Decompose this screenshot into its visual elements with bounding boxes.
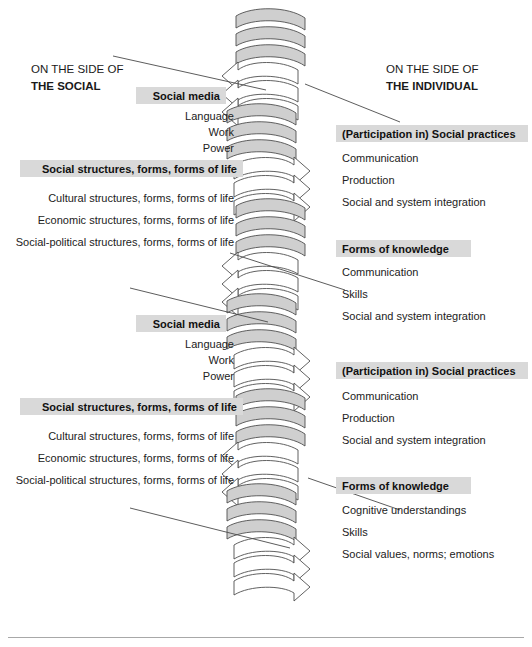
right-item-2-0: Communication [342,390,418,403]
right-item-2-2: Social and system integration [342,434,486,447]
right-heading-1: Forms of knowledge [342,243,449,256]
left-item-0-0: Language [120,110,234,123]
right-caption-line1: ON THE SIDE OF [386,62,478,76]
left-item-0-1: Work [120,126,234,139]
left-item-2-2: Power [120,370,234,383]
left-heading-0: Social media [136,90,220,103]
right-item-2-1: Production [342,412,395,425]
right-item-1-2: Social and system integration [342,310,486,323]
left-caption-line1: ON THE SIDE OF [31,62,123,76]
right-item-0-0: Communication [342,152,418,165]
right-item-1-1: Skills [342,288,368,301]
right-item-0-1: Production [342,174,395,187]
left-item-2-0: Language [120,338,234,351]
diagram-canvas: ON THE SIDE OF THE SOCIAL ON THE SIDE OF… [0,0,532,647]
right-item-0-2: Social and system integration [342,196,486,209]
left-item-3-0: Cultural structures, forms, forms of lif… [0,430,234,443]
right-caption-line2: THE INDIVIDUAL [386,79,478,93]
right-heading-2: (Participation in) Social practices [342,365,516,378]
right-item-3-1: Skills [342,526,368,539]
right-heading-0: (Participation in) Social practices [342,128,516,141]
right-heading-3: Forms of knowledge [342,480,449,493]
left-item-1-2: Social-political structures, forms, form… [0,236,234,249]
left-item-1-1: Economic structures, forms, forms of lif… [0,214,234,227]
right-item-1-0: Communication [342,266,418,279]
left-item-2-1: Work [120,354,234,367]
left-heading-2: Social media [136,318,220,331]
bottom-divider [8,637,524,638]
right-item-3-2: Social values, norms; emotions [342,548,494,561]
left-item-3-1: Economic structures, forms, forms of lif… [0,452,234,465]
left-heading-3: Social structures, forms, forms of life [20,401,237,414]
left-heading-1: Social structures, forms, forms of life [20,163,237,176]
left-item-3-2: Social-political structures, forms, form… [0,474,234,487]
right-item-3-0: Cognitive understandings [342,504,466,517]
left-item-0-2: Power [120,142,234,155]
left-item-1-0: Cultural structures, forms, forms of lif… [0,192,234,205]
left-caption-line2: THE SOCIAL [31,79,101,93]
